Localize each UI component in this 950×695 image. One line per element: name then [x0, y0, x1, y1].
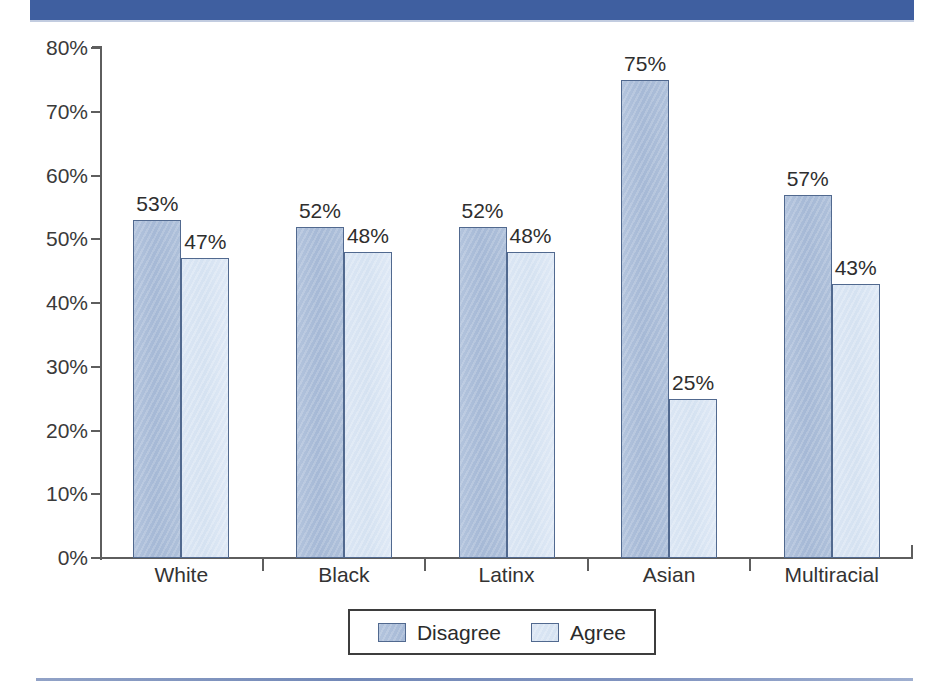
y-axis-tick-label: 50%	[8, 228, 88, 249]
bar-black-agree	[344, 252, 392, 558]
page-footer-rule	[36, 678, 913, 681]
bar-multiracial-agree	[832, 284, 880, 558]
y-axis-tick-label: 20%	[8, 420, 88, 441]
bar-value-label: 43%	[816, 257, 896, 278]
y-axis-tick-label: 80%	[8, 37, 88, 58]
legend-item-disagree[interactable]: Disagree	[378, 622, 501, 643]
y-axis-tick	[91, 175, 101, 177]
chart-legend: Disagree Agree	[348, 609, 656, 655]
x-axis-right-cap	[911, 545, 913, 559]
y-axis-tick-label: 0%	[8, 547, 88, 568]
y-axis-tick	[91, 238, 101, 240]
bar-asian-disagree	[621, 80, 669, 558]
bar-latinx-agree	[507, 252, 555, 558]
page-header-rule	[30, 0, 914, 20]
y-axis-tick-label: 70%	[8, 101, 88, 122]
legend-swatch-agree-icon	[531, 623, 559, 642]
bar-value-label: 47%	[165, 231, 245, 252]
x-axis-category-label: White	[100, 564, 263, 585]
y-axis-tick-label: 10%	[8, 483, 88, 504]
y-axis-tick	[91, 493, 101, 495]
y-axis-tick-label: 60%	[8, 165, 88, 186]
bar-white-agree	[181, 258, 229, 558]
bar-latinx-disagree	[459, 227, 507, 559]
bar-value-label: 48%	[328, 225, 408, 246]
page-header-rule-shadow	[30, 20, 914, 22]
legend-label-disagree: Disagree	[417, 622, 501, 643]
y-axis-tick-label: 30%	[8, 356, 88, 377]
bar-value-label: 75%	[605, 53, 685, 74]
bar-multiracial-disagree	[784, 195, 832, 558]
x-axis-category-label: Asian	[588, 564, 751, 585]
x-axis-category-label: Latinx	[425, 564, 588, 585]
y-axis-tick	[91, 557, 101, 559]
y-axis-tick	[91, 366, 101, 368]
legend-label-agree: Agree	[570, 622, 626, 643]
legend-item-agree[interactable]: Agree	[531, 622, 626, 643]
legend-swatch-disagree-icon	[378, 623, 406, 642]
y-axis-tick-label: 40%	[8, 292, 88, 313]
bar-value-label: 25%	[653, 372, 733, 393]
scan-artifact-text	[128, 66, 918, 82]
x-axis-category-label: Black	[263, 564, 426, 585]
bar-value-label: 52%	[443, 200, 523, 221]
bar-white-disagree	[133, 220, 181, 558]
y-axis-tick	[91, 47, 101, 49]
bar-value-label: 52%	[280, 200, 360, 221]
y-axis-tick	[91, 430, 101, 432]
bar-value-label: 53%	[117, 193, 197, 214]
bar-black-disagree	[296, 227, 344, 559]
bar-value-label: 57%	[768, 168, 848, 189]
y-axis-tick	[91, 111, 101, 113]
x-axis-category-label: Multiracial	[750, 564, 913, 585]
y-axis-tick	[91, 302, 101, 304]
bar-chart: 0%10%20%30%40%50%60%70%80% WhiteBlackLat…	[0, 0, 950, 695]
bar-asian-agree	[669, 399, 717, 558]
bar-value-label: 48%	[491, 225, 571, 246]
